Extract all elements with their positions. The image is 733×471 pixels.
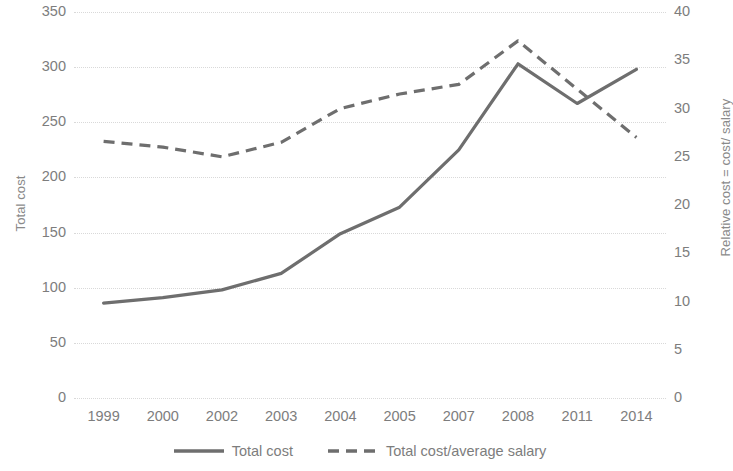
chart-legend: Total cost Total cost/average salary (0, 443, 719, 459)
legend-item-total-cost-per-average-salary: Total cost/average salary (327, 443, 546, 459)
legend-label-total-cost: Total cost (232, 443, 293, 459)
solid-line-swatch (173, 445, 225, 457)
dashed-line-swatch (327, 445, 379, 457)
y-axis-right-title: Relative cost = cost/ salary (718, 98, 733, 258)
legend-item-total-cost: Total cost (173, 443, 293, 459)
series-line-total-cost-per-average-salary (104, 41, 637, 157)
legend-label-total-cost-per-average-salary: Total cost/average salary (386, 443, 546, 459)
